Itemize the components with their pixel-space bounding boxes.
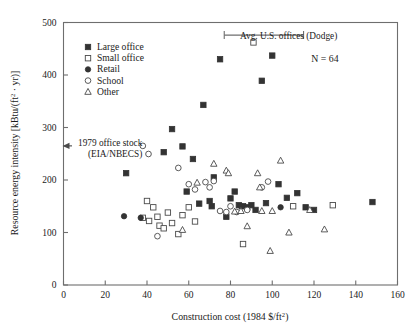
- data-point: [123, 170, 128, 175]
- legend-label-school: School: [97, 75, 124, 86]
- x-axis-title: Construction cost (1984 $/ft2): [172, 311, 289, 323]
- data-point: [151, 205, 156, 210]
- data-point: [284, 195, 289, 200]
- data-point: [201, 102, 206, 107]
- x-tick-label-0: 0: [61, 290, 66, 300]
- data-point: [192, 187, 198, 193]
- data-point: [223, 209, 229, 215]
- data-point: [303, 205, 308, 210]
- scatter-chart-figure: 020406080100120140160 0100200300400500 C…: [0, 0, 420, 332]
- data-point: [330, 203, 335, 208]
- data-point: [192, 219, 197, 224]
- x-tick-label-60: 60: [184, 290, 194, 300]
- data-point: [155, 233, 161, 239]
- avg-us-offices-label: Avg. U.S. offices (Dodge): [240, 31, 337, 42]
- data-point: [203, 179, 209, 185]
- data-point: [253, 207, 258, 212]
- data-point: [263, 200, 268, 205]
- data-point: [211, 178, 217, 184]
- data-point: [175, 165, 181, 171]
- chart-canvas: 020406080100120140160 0100200300400500 C…: [0, 0, 420, 332]
- legend-label-large-office: Large office: [97, 41, 144, 52]
- legend-label-other: Other: [97, 86, 120, 97]
- data-point: [138, 215, 143, 220]
- data-point: [228, 196, 233, 201]
- x-tick-label-120: 120: [307, 290, 322, 300]
- data-point: [251, 40, 256, 45]
- data-point: [207, 185, 213, 191]
- data-point: [161, 226, 166, 231]
- data-point: [186, 205, 191, 210]
- legend-marker-retail: [85, 67, 90, 72]
- data-point: [196, 201, 201, 206]
- data-point: [207, 198, 212, 203]
- data-point: [270, 53, 275, 58]
- x-tick-label-20: 20: [101, 290, 111, 300]
- x-tick-label-80: 80: [226, 290, 236, 300]
- y-tick-label-300: 300: [42, 123, 57, 133]
- data-point: [295, 190, 300, 195]
- annotation-avg-us-offices: Avg. U.S. offices (Dodge): [224, 31, 337, 42]
- x-tick-label-100: 100: [265, 290, 280, 300]
- data-point: [161, 149, 166, 154]
- office-stock-label-line2: (EIA/NBECS): [88, 149, 142, 160]
- y-tick-label-100: 100: [42, 228, 57, 238]
- data-point: [169, 126, 174, 131]
- data-point: [217, 57, 222, 62]
- data-point: [217, 208, 223, 214]
- legend-marker-school: [85, 78, 91, 84]
- data-point: [180, 212, 185, 217]
- x-tick-label-140: 140: [349, 290, 364, 300]
- x-tick-label-160: 160: [390, 290, 405, 300]
- sample-size-label: N = 64: [311, 53, 338, 64]
- legend-label-retail: Retail: [97, 63, 120, 74]
- data-point: [228, 203, 234, 209]
- data-point: [186, 181, 192, 187]
- x-tick-label-40: 40: [142, 290, 152, 300]
- data-point: [265, 179, 271, 185]
- data-point: [144, 198, 149, 203]
- y-tick-label-400: 400: [42, 70, 57, 80]
- data-point: [259, 78, 264, 83]
- data-point: [240, 241, 245, 246]
- legend-marker-small-office: [85, 56, 90, 61]
- data-point: [244, 207, 250, 213]
- y-tick-label-0: 0: [52, 280, 57, 290]
- data-point: [180, 144, 185, 149]
- data-point: [278, 205, 283, 210]
- legend-marker-large-office: [85, 44, 90, 49]
- data-point: [155, 214, 160, 219]
- data-point: [165, 210, 170, 215]
- office-stock-circle-marker: [146, 151, 152, 157]
- data-point: [290, 204, 295, 209]
- data-point: [121, 214, 126, 219]
- data-point: [169, 220, 174, 225]
- legend-label-small-office: Small office: [97, 52, 144, 63]
- data-point: [232, 189, 237, 194]
- data-point: [209, 204, 214, 209]
- data-point: [146, 218, 151, 223]
- data-point: [276, 182, 281, 187]
- y-tick-label-200: 200: [42, 175, 57, 185]
- data-point: [370, 199, 375, 204]
- data-point: [190, 156, 195, 161]
- y-tick-label-500: 500: [42, 18, 57, 28]
- office-stock-label-line1: 1979 office stock: [78, 138, 143, 148]
- office-stock-marker: [146, 151, 152, 157]
- data-point: [184, 189, 189, 194]
